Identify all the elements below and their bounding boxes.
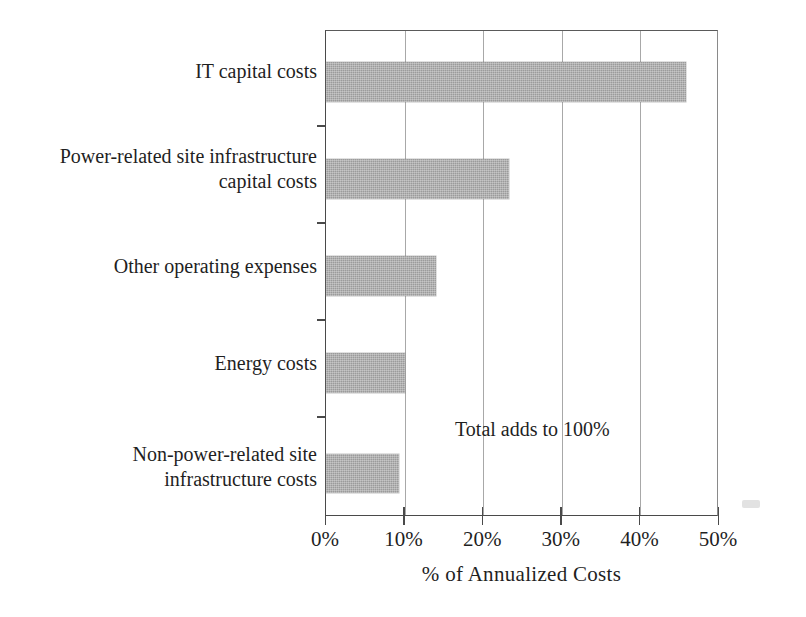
bar-energy-costs — [326, 353, 405, 393]
y-axis-tick-4 — [317, 416, 326, 418]
x-axis-tick-label-40: 40% — [604, 527, 674, 552]
x-axis-tick-10 — [403, 507, 404, 525]
y-axis-tick-1 — [317, 125, 326, 127]
y-axis-label-4: Non-power-related site infrastructure co… — [17, 442, 317, 492]
bar-non-power-related-site-infrastructure-costs — [326, 454, 399, 493]
y-axis-tick-2 — [317, 222, 326, 224]
bar-other-operating-expenses — [326, 256, 436, 296]
x-axis-tick-label-0: 0% — [290, 527, 360, 552]
y-axis-label-1: Power-related site infrastructure capita… — [17, 144, 317, 194]
gridline-40 — [640, 31, 641, 515]
bar-it-capital-costs — [326, 62, 686, 102]
chart-annotation-total: Total adds to 100% — [455, 418, 610, 441]
x-axis-tick-label-30: 30% — [526, 527, 596, 552]
x-axis-tick-label-20: 20% — [447, 527, 517, 552]
x-axis-tick-20 — [482, 507, 483, 525]
scan-artifact — [742, 500, 760, 508]
x-axis-tick-label-50: 50% — [683, 527, 753, 552]
plot-area — [325, 30, 718, 516]
y-axis-label-3: Energy costs — [17, 351, 317, 376]
y-axis-label-2: Other operating expenses — [17, 254, 317, 279]
x-axis-tick-40 — [639, 507, 640, 525]
y-axis-label-0: IT capital costs — [17, 59, 317, 84]
bar-chart-figure: IT capital costs Power-related site infr… — [0, 0, 806, 617]
gridline-20 — [483, 31, 484, 515]
bar-power-related-site-infrastructure-capital-costs — [326, 159, 509, 199]
gridline-30 — [562, 31, 563, 515]
x-axis-tick-0 — [325, 507, 326, 525]
x-axis-tick-30 — [560, 507, 561, 525]
x-axis-title: % of Annualized Costs — [325, 562, 718, 587]
x-axis-tick-50 — [718, 507, 719, 525]
y-axis-tick-3 — [317, 319, 326, 321]
x-axis-tick-label-10: 10% — [369, 527, 439, 552]
